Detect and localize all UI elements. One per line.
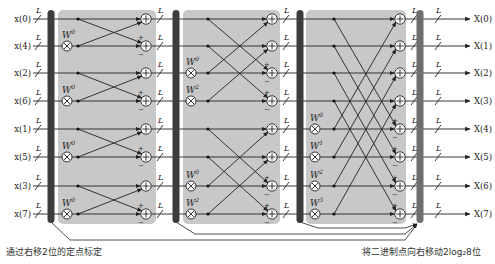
junction-dot [76,127,79,130]
junction-dot [332,155,335,158]
adder-node [141,41,151,51]
junction-dot [206,212,209,215]
bus-width-label: L [35,60,41,69]
sign-plus: + [264,202,270,210]
bus-width-label: L [411,33,417,42]
adder-node [395,41,405,51]
adder-node [141,14,151,24]
junction-dot [76,44,79,47]
bus-width-label: L [435,6,441,15]
bus-width-label: L [283,116,289,125]
sign-minus: − [138,219,144,227]
input-label: x(3) [14,181,31,191]
sign-minus: − [138,162,144,170]
bus-width-label: L [435,144,441,153]
sign-plus: + [264,89,270,97]
junction-dot [206,17,209,20]
fft-butterfly-diagram: x(0)Lx(4)Lx(2)Lx(6)Lx(1)Lx(5)Lx(3)Lx(7)L… [0,0,495,264]
bus-width-label: L [157,33,163,42]
sign-plus: + [138,34,144,42]
twiddle-exponent: 0 [71,28,75,35]
adder-node [267,68,277,78]
bus-width-label: L [411,144,417,153]
twiddle-exponent: 2 [318,168,323,175]
output-label: X(3) [474,96,492,106]
bus-width-label: L [411,116,417,125]
sign-plus: + [138,145,144,153]
twiddle-exponent: 0 [195,168,199,175]
bus-width-label: L [157,201,163,210]
sign-minus: − [264,219,270,227]
bus-width-label: L [35,116,41,125]
multiplier-node [310,181,320,191]
adder-node [395,14,405,24]
junction-dot [332,212,335,215]
bus-width-label: L [157,116,163,125]
multiplier-node [62,41,72,51]
output-label: X(1) [474,41,492,51]
bus-width-label: L [283,144,289,153]
adder-node [395,152,405,162]
bus-width-label: L [283,173,289,182]
bus-width-label: L [283,88,289,97]
junction-dot [76,184,79,187]
adder-node [141,181,151,191]
junction-dot [332,44,335,47]
twiddle-exponent: 1 [319,139,323,146]
output-label: X(0) [474,14,492,24]
input-label: x(5) [14,152,31,162]
input-label: x(2) [14,68,31,78]
adder-node [395,96,405,106]
sign-minus: − [392,191,398,199]
twiddle-exponent: 0 [319,111,323,118]
bus-width-label: L [157,88,163,97]
bus-width-label: L [283,60,289,69]
output-label: X(4) [474,124,492,134]
bus-width-label: L [283,6,289,15]
multiplier-node [186,181,196,191]
junction-dot [206,71,209,74]
sign-plus: + [264,61,270,69]
input-label: x(1) [14,124,31,134]
sign-minus: − [138,106,144,114]
sign-minus: − [138,51,144,59]
junction-dot [76,71,79,74]
sign-minus: − [264,191,270,199]
input-label: x(0) [14,14,31,24]
scaling-bar-1 [48,10,55,223]
twiddle-exponent: 3 [319,196,323,203]
caption-binary-point-shift: 将二进制点向右移动2log₂8位 [362,245,481,258]
output-label: X(2) [474,68,492,78]
junction-dot [206,99,209,102]
multiplier-node [62,209,72,219]
bus-width-label: L [35,6,41,15]
sign-plus: + [392,174,398,182]
twiddle-exponent: 0 [71,196,75,203]
junction-dot [206,127,209,130]
sign-minus: − [264,106,270,114]
junction-dot [332,71,335,74]
sign-plus: + [264,174,270,182]
multiplier-node [310,152,320,162]
junction-dot [332,184,335,187]
sign-minus: − [392,134,398,142]
output-label: X(6) [474,181,492,191]
input-label: x(6) [14,96,31,106]
junction-dot [76,212,79,215]
twiddle-exponent: 0 [195,55,199,62]
sign-plus: + [392,145,398,153]
bus-width-label: L [411,201,417,210]
bus-width-label: L [35,88,41,97]
multiplier-node [62,152,72,162]
adder-node [267,181,277,191]
multiplier-node [186,96,196,106]
junction-dot [76,155,79,158]
caption-fixed-point-scaling: 通过右移2位的定点标定 [6,245,102,258]
adder-node [267,124,277,134]
adder-node [395,181,405,191]
bus-width-label: L [35,144,41,153]
sign-plus: + [392,202,398,210]
multiplier-node [186,209,196,219]
adder-node [141,152,151,162]
twiddle-exponent: 0 [71,83,75,90]
